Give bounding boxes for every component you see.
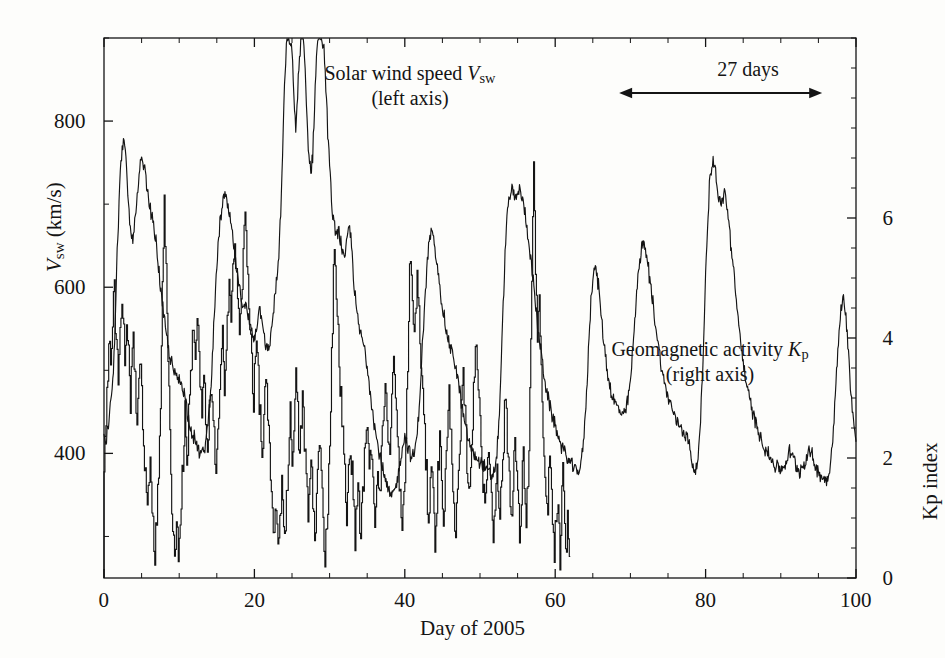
y-right-axis-title: Kp index	[918, 442, 943, 520]
y-left-tick-label: 600	[54, 275, 86, 300]
y-right-tick-label: 0	[883, 566, 894, 591]
vsw-annotation-subscript: sw	[479, 70, 495, 86]
x-tick-label: 80	[695, 588, 716, 613]
vsw-annotation-symbol: V	[467, 62, 479, 84]
kp-annotation-line1: Geomagnetic activity Kp	[565, 338, 855, 363]
y-left-axis-title: Vsw (km/s)	[42, 182, 68, 272]
recurrence-annotation-label: 27 days	[650, 58, 846, 82]
x-tick-label: 0	[99, 588, 110, 613]
vsw-annotation-line1: Solar wind speed Vsw	[280, 62, 540, 87]
plot-frame	[104, 38, 856, 578]
recurrence-text: 27 days	[717, 58, 779, 80]
y-right-tick-label: 4	[883, 326, 894, 351]
kp-series-line	[104, 162, 570, 578]
y-right-tick-label: 2	[883, 446, 894, 471]
kp-axis-title-text: Kp index	[918, 442, 942, 520]
x-tick-label: 100	[840, 588, 872, 613]
kp-annotation: Geomagnetic activity Kp (right axis)	[565, 338, 855, 387]
kp-annotation-subscript: p	[801, 346, 808, 362]
y-left-tick-label: 800	[54, 109, 86, 134]
axis-ticks	[104, 38, 856, 578]
recurrence-arrow	[619, 88, 822, 98]
figure-canvas: 400 600 800 0 2 4 6 0 20 40 60 80 100 Vs…	[0, 0, 945, 658]
vsw-annotation-prefix: Solar wind speed	[325, 62, 468, 84]
y-left-tick-label: 400	[54, 441, 86, 466]
vsw-subscript: sw	[51, 242, 67, 259]
kp-annotation-line2: (right axis)	[565, 363, 855, 387]
vsw-annotation-line2: (left axis)	[280, 87, 540, 111]
x-tick-label: 60	[545, 588, 566, 613]
kp-annotation-prefix: Geomagnetic activity	[611, 338, 788, 360]
y-right-tick-label: 6	[883, 206, 894, 231]
vsw-symbol: V	[42, 259, 66, 272]
vsw-annotation: Solar wind speed Vsw (left axis)	[280, 62, 540, 111]
vsw-units: (km/s)	[42, 182, 66, 237]
kp-annotation-symbol: K	[788, 338, 801, 360]
x-axis-title-text: Day of 2005	[420, 616, 525, 640]
x-tick-label: 20	[244, 588, 265, 613]
x-axis-title: Day of 2005	[0, 616, 945, 641]
x-tick-label: 40	[394, 588, 415, 613]
